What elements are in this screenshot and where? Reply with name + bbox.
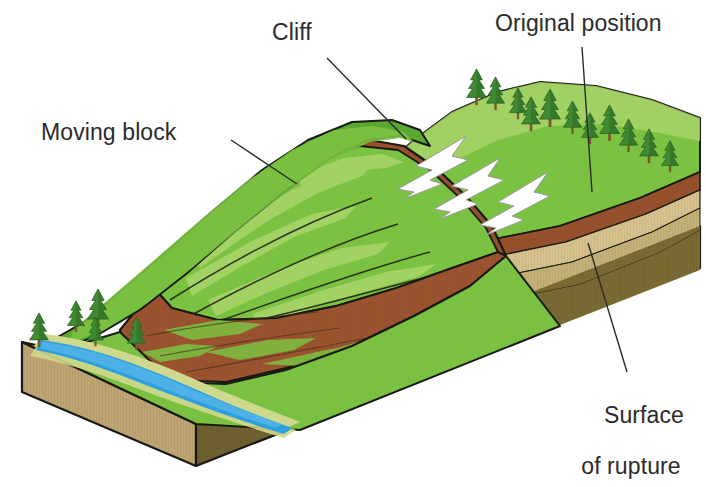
label-surface-of-rupture-line2: of rupture	[578, 454, 684, 480]
label-surface-of-rupture-line1: Surface	[604, 402, 684, 428]
label-surface-of-rupture: Surface of rupture	[578, 377, 684, 487]
diagram-canvas: Cliff Original position Moving block Sur…	[0, 0, 706, 487]
label-original-position: Original position	[495, 11, 662, 37]
label-cliff: Cliff	[272, 20, 312, 46]
label-moving-block: Moving block	[41, 120, 176, 146]
